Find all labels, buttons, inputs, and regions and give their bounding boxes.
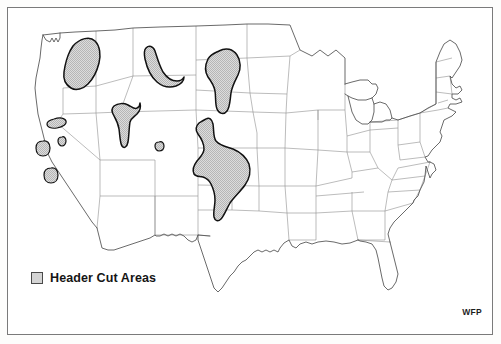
us-map-graphic [0, 0, 501, 344]
region-southern-oregon-oval [47, 118, 66, 128]
region-dakotas-north-south [206, 49, 240, 114]
map-legend: Header Cut Areas [31, 271, 156, 285]
region-palouse-washington-oregon-idaho [64, 38, 100, 89]
legend-label: Header Cut Areas [50, 271, 156, 285]
region-central-california-oval [44, 168, 58, 183]
region-southeast-idaho-northern-utah [112, 103, 140, 147]
map-page: Header Cut Areas WFP [0, 0, 501, 344]
region-northeast-california-oval [36, 141, 50, 156]
state-borders [57, 24, 452, 242]
region-central-plains-colorado-kansas-oklahoma [193, 118, 250, 221]
region-sierra-valley-oval [58, 137, 66, 146]
region-north-central-montana [144, 46, 184, 87]
region-northwest-colorado-oval [155, 142, 164, 151]
shaded-area-swatch [31, 272, 43, 284]
map-credit: WFP [462, 307, 482, 317]
header-cut-regions [64, 38, 250, 220]
